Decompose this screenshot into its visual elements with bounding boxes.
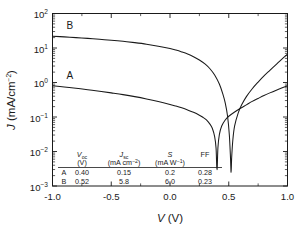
table-cell-s: 6.0	[165, 177, 175, 186]
x-tick-label: -0.5	[103, 191, 120, 202]
table-cell-ff: 0.23	[198, 177, 212, 186]
table-cell-voc: 0.52	[75, 177, 89, 186]
table-row-label: A	[62, 168, 67, 177]
table-header-ff: FF	[201, 150, 210, 159]
x-tick-label: 0.0	[163, 191, 176, 202]
x-tick-label: 0.5	[222, 191, 235, 202]
chart-figure: B A 102 101 100 10−1 10−2 10−3 -1.0 -0.5…	[0, 0, 301, 233]
curve-label-a: A	[67, 70, 74, 81]
jv-curve-chart: B A 102 101 100 10−1 10−2 10−3 -1.0 -0.5…	[0, 0, 301, 233]
table-cell-voc: 0.40	[75, 168, 89, 177]
table-cell-s: 0.2	[165, 168, 175, 177]
table-row-label: B	[62, 177, 67, 186]
x-tick-label: -1.0	[44, 191, 61, 202]
x-tick-label: 1.0	[281, 191, 294, 202]
table-cell-jsc: 0.15	[117, 168, 131, 177]
curve-label-b: B	[67, 20, 74, 31]
table-cell-ff: 0.28	[198, 168, 212, 177]
x-axis-title: V (V)	[157, 212, 183, 224]
table-header-voc-units: (V)	[77, 158, 87, 167]
table-cell-jsc: 5.8	[119, 177, 129, 186]
